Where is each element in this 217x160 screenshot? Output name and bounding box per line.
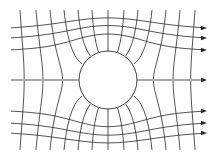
equipotential-line — [191, 81, 195, 150]
arrow-right-icon — [201, 109, 207, 113]
equipotential-line — [20, 10, 24, 79]
streamline — [11, 123, 203, 135]
streamline — [11, 34, 203, 50]
equipotential-line — [20, 81, 24, 150]
arrow-right-icon — [201, 121, 207, 125]
arrow-right-icon — [201, 131, 207, 135]
equipotential-line — [36, 81, 43, 150]
equipotential-line — [92, 108, 99, 150]
streamline — [11, 26, 203, 38]
equipotential-line — [117, 108, 124, 150]
flow-diagram — [0, 0, 217, 160]
equipotential-line — [78, 10, 90, 56]
equipotential-line — [134, 10, 152, 64]
equipotential-line — [64, 10, 82, 64]
equipotential-line — [117, 10, 124, 52]
equipotential-line — [126, 10, 138, 56]
equipotential-line — [173, 10, 180, 79]
arrow-right-icon — [201, 26, 207, 30]
equipotential-line — [134, 96, 152, 150]
equipotential-line — [126, 104, 138, 150]
cylinder-circle — [79, 51, 137, 109]
arrow-right-icon — [201, 78, 207, 82]
equipotential-line — [36, 10, 43, 79]
arrow-right-icon — [201, 36, 207, 40]
arrow-right-icon — [201, 48, 207, 52]
streamline — [11, 111, 203, 127]
equipotential-line — [191, 10, 195, 79]
arrowheads — [201, 26, 207, 135]
streamline — [11, 133, 203, 143]
equipotential-line — [92, 10, 99, 52]
equipotential-line — [64, 96, 82, 150]
streamline — [11, 18, 203, 28]
equipotential-line — [78, 104, 90, 150]
equipotential-line — [173, 81, 180, 150]
